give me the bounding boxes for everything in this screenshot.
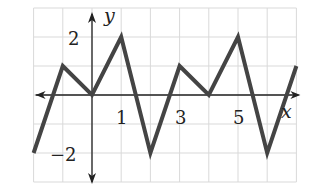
tick-label-x-5: 5 xyxy=(233,107,244,128)
tick-label-x-1: 1 xyxy=(116,107,127,128)
graph-of-function: y x 2 −2 1 3 5 xyxy=(0,0,314,195)
tick-label-y-neg2: −2 xyxy=(50,144,77,165)
y-axis-label: y xyxy=(103,4,115,26)
tick-label-x-3: 3 xyxy=(175,107,186,128)
tick-label-y-2: 2 xyxy=(68,28,79,49)
y-axis xyxy=(88,12,96,184)
x-axis-label: x xyxy=(281,100,292,122)
